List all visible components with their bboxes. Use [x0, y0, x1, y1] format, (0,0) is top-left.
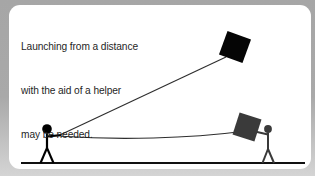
caption-line-2: with the aid of a helper — [21, 84, 201, 99]
helper-leg-right — [268, 149, 274, 163]
caption-line-3: may be needed. — [21, 128, 201, 143]
helper-head — [264, 125, 272, 133]
caption-text: Launching from a distance with the aid o… — [21, 11, 201, 169]
caption-line-1: Launching from a distance — [21, 40, 201, 55]
helper-leg-left — [263, 149, 269, 163]
illustration-card: Launching from a distance with the aid o… — [9, 5, 311, 169]
screenshot-root: Launching from a distance with the aid o… — [0, 0, 315, 176]
kite-held-by-helper — [233, 113, 262, 142]
